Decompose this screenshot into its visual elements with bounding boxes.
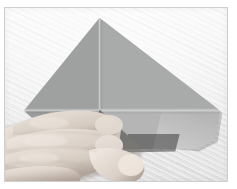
image-subject: hands folding gray origami paper on whit…: [0, 0, 1, 1]
photo-image: [5, 8, 227, 181]
screenshot-root: Origami folding step photograph hands fo…: [0, 0, 237, 189]
photo-frame: [4, 7, 228, 182]
image-title: Origami folding step photograph: [0, 0, 1, 1]
